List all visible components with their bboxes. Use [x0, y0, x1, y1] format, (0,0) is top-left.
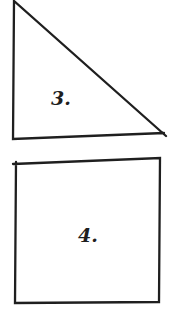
worksheet-page: 3. 4.	[0, 0, 171, 317]
sketch-canvas: 3. 4.	[0, 0, 171, 317]
triangle-outline	[13, 1, 166, 139]
square-number-label: 4.	[78, 224, 98, 246]
triangle-number-label: 3.	[51, 87, 71, 109]
